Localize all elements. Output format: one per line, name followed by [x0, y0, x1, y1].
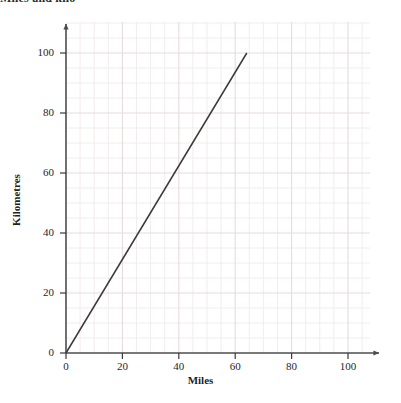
- y-tick-label: 0: [14, 346, 54, 358]
- x-axis-title: Miles: [0, 374, 401, 386]
- x-tick-label: 0: [46, 360, 86, 372]
- grid-minor: [66, 22, 370, 353]
- y-tick-label: 100: [14, 46, 54, 58]
- y-tick-label: 20: [14, 286, 54, 298]
- axis-ticks: [60, 53, 348, 359]
- y-tick-label: 80: [14, 106, 54, 118]
- y-axis-title: Kilometres: [10, 155, 22, 245]
- conversion-graph-figure: Miles and kilo: [0, 0, 401, 403]
- x-tick-label: 80: [272, 360, 312, 372]
- x-tick-label: 40: [159, 360, 199, 372]
- x-tick-label: 20: [102, 360, 142, 372]
- chart-canvas: [0, 0, 401, 403]
- x-tick-label: 100: [328, 360, 368, 372]
- x-tick-label: 60: [215, 360, 255, 372]
